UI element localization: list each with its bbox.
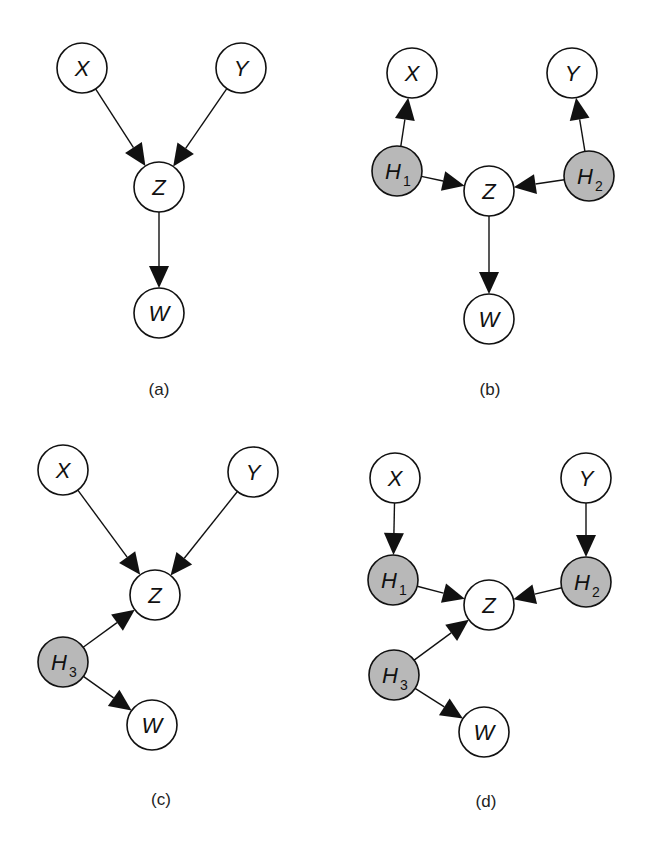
node-label: H — [385, 159, 401, 184]
node-subscript: 3 — [400, 677, 408, 693]
panel-d: XYH1H2ZH3W(d) — [368, 453, 611, 811]
edge-h1-to-x — [395, 98, 415, 147]
edge-y-to-h2 — [576, 503, 596, 557]
arrowhead-icon — [119, 551, 140, 575]
node-label: Y — [246, 460, 262, 485]
node-w-observed: W — [459, 707, 509, 757]
arrowhead-icon — [441, 171, 465, 191]
arrowhead-icon — [576, 535, 596, 557]
edge-y-to-z — [171, 492, 238, 576]
edge-h1-to-z — [417, 583, 465, 602]
arrowhead-icon — [479, 272, 499, 294]
panel-caption: (b) — [480, 380, 501, 399]
node-label: X — [74, 56, 91, 81]
arrowhead-icon — [570, 98, 590, 121]
edge-h1-to-z — [421, 171, 464, 191]
node-label: Z — [481, 593, 497, 618]
node-y-observed: Y — [216, 43, 266, 93]
node-w-observed: W — [464, 294, 514, 344]
node-h1-hidden: H1 — [368, 555, 418, 605]
node-subscript: 1 — [403, 173, 411, 189]
node-label: Z — [147, 583, 163, 608]
node-subscript: 2 — [592, 584, 600, 600]
panel-caption: (a) — [149, 380, 170, 399]
panel-c: XYZH3W(c) — [38, 445, 278, 809]
node-label: Y — [579, 466, 595, 491]
node-label: H — [577, 164, 593, 189]
edge-h3-to-w — [415, 688, 463, 718]
panel-a: XYZW(a) — [57, 43, 266, 399]
node-h3-hidden: H3 — [369, 650, 419, 700]
node-label: X — [55, 458, 72, 483]
edge-x-to-z — [96, 89, 146, 166]
edge-h2-to-z — [513, 584, 561, 603]
node-label: X — [387, 466, 404, 491]
node-label: Z — [151, 175, 167, 200]
node-label: H — [51, 650, 67, 675]
node-x-observed: X — [387, 48, 437, 98]
node-h2-hidden: H2 — [564, 151, 614, 201]
edge-h3-to-z — [83, 610, 135, 648]
node-y-observed: Y — [547, 48, 597, 98]
arrowhead-icon — [395, 98, 415, 121]
arrowhead-icon — [513, 584, 537, 603]
node-label: X — [404, 61, 421, 86]
node-label: H — [574, 570, 590, 595]
arrowhead-icon — [514, 174, 537, 194]
node-subscript: 2 — [595, 178, 603, 194]
arrowhead-icon — [173, 143, 194, 167]
arrowhead-icon — [439, 698, 463, 718]
arrowhead-icon — [125, 142, 145, 166]
node-label: W — [479, 307, 502, 332]
arrowhead-icon — [111, 610, 135, 631]
panel-b: XYH1H2ZW(b) — [372, 48, 614, 399]
edge-h2-to-y — [570, 98, 590, 152]
edge-z-to-w — [149, 212, 169, 288]
node-y-observed: Y — [228, 447, 278, 497]
edge-y-to-z — [173, 89, 227, 167]
node-w-observed: W — [127, 700, 177, 750]
arrowhead-icon — [149, 266, 169, 288]
arrowhead-icon — [441, 583, 465, 602]
node-z-observed: Z — [130, 570, 180, 620]
panel-caption: (c) — [151, 790, 171, 809]
edge-x-to-h1 — [384, 503, 404, 555]
node-x-observed: X — [370, 453, 420, 503]
edge-z-to-w — [479, 216, 499, 294]
node-w-observed: W — [134, 288, 184, 338]
node-z-observed: Z — [134, 162, 184, 212]
node-x-observed: X — [57, 43, 107, 93]
node-label: W — [474, 720, 497, 745]
node-h1-hidden: H1 — [372, 146, 422, 196]
arrowhead-icon — [171, 552, 193, 575]
arrowhead-icon — [108, 690, 132, 711]
node-h3-hidden: H3 — [38, 637, 88, 687]
node-z-observed: Z — [464, 580, 514, 630]
node-subscript: 3 — [69, 664, 77, 680]
edge-h3-to-w — [83, 676, 131, 710]
edge-x-to-z — [78, 490, 140, 575]
arrowhead-icon — [445, 620, 469, 641]
bayesian-network-figure: XYZW(a)XYH1H2ZW(b)XYZH3W(c)XYH1H2ZH3W(d) — [0, 0, 649, 854]
node-h2-hidden: H2 — [561, 557, 611, 607]
node-label: Y — [234, 56, 250, 81]
panel-caption: (d) — [476, 792, 497, 811]
edge-h3-to-z — [414, 620, 469, 660]
edge-h2-to-z — [514, 174, 565, 194]
node-x-observed: X — [38, 445, 88, 495]
node-label: H — [381, 568, 397, 593]
node-label: Y — [565, 61, 581, 86]
node-label: Z — [481, 179, 497, 204]
node-subscript: 1 — [399, 582, 407, 598]
node-label: W — [149, 301, 172, 326]
node-z-observed: Z — [464, 166, 514, 216]
node-y-observed: Y — [561, 453, 611, 503]
node-label: W — [142, 713, 165, 738]
arrowhead-icon — [384, 533, 404, 555]
node-label: H — [382, 663, 398, 688]
